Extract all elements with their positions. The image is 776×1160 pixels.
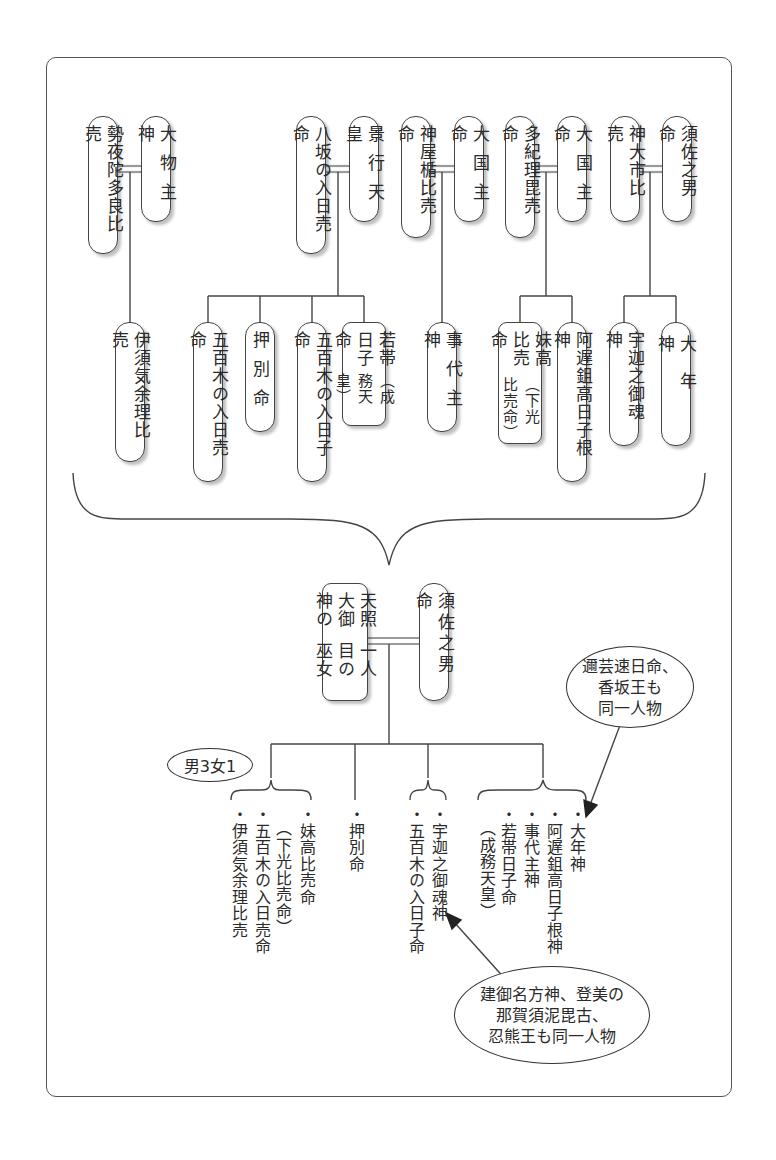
name-label: 須佐之男命: [412, 592, 456, 692]
name-label: 妹高比売命: [487, 331, 553, 377]
child-c2-2: 押別命: [245, 322, 275, 432]
name-label: 阿遅鉏高日子根神: [550, 331, 594, 473]
name-label: 一人目の巫女: [312, 642, 378, 692]
note-text: 邇芸速日命、: [582, 656, 678, 677]
child-c1-1: 伊須気余理比売: [115, 322, 145, 462]
name-label: 天照大御神の: [312, 592, 378, 642]
child-c4-1: 妹高比売命 （下光比売命）: [498, 322, 542, 444]
name-label: 大国主命: [447, 125, 491, 213]
child-c5-2: 大年神: [661, 322, 691, 446]
person-wife-bottom: 天照大御神の 一人目の巫女: [322, 583, 368, 701]
name-label: 若帯日子命: [331, 331, 397, 373]
count-label: 男3女1: [184, 753, 236, 777]
name-label: 五百木の入日子命: [290, 331, 334, 473]
child-c2-4: 若帯日子命 （成務天皇）: [342, 322, 386, 426]
person-husband-c4: 大国主命: [557, 116, 587, 222]
list-item: ・五百木の入日売命: [251, 806, 272, 955]
list-item-note: （下光比売命）: [272, 820, 293, 936]
person-husband-bottom: 須佐之男命: [419, 583, 449, 701]
name-label: 景行天皇: [342, 125, 386, 213]
child-c2-1: 五百木の入日売命: [193, 322, 223, 482]
person-wife-c4: 多紀理毘売命: [505, 116, 535, 238]
name-label: 五百木の入日売命: [186, 331, 230, 473]
note-text: 香坂王も: [598, 677, 662, 698]
list-item: ・押別命: [345, 806, 366, 872]
name-label: 多紀理毘売命: [498, 125, 542, 229]
note-text: 那賀須泥毘古、: [496, 1005, 608, 1026]
note-bubble-1: 邇芸速日命、 香坂王も 同一人物: [566, 646, 694, 728]
person-husband-c2: 景行天皇: [349, 116, 379, 222]
child-c5-1: 宇迦之御魂神: [609, 322, 639, 446]
name-label: 大年神: [654, 335, 698, 437]
name-label: 神大市比売: [603, 125, 647, 213]
child-c2-3: 五百木の入日子命: [297, 322, 327, 482]
name-label: 神屋楯比売命: [394, 125, 438, 229]
name-label: 押別命: [249, 331, 271, 418]
person-wife-c2: 八坂の入日売命: [296, 116, 326, 254]
name-label: 事代主神: [420, 331, 464, 423]
list-item: ・若帯日子命: [497, 806, 518, 905]
list-item: ・妹高比売命: [296, 806, 317, 905]
person-wife-c5: 神大市比売: [610, 116, 640, 222]
list-item: ・伊須気余理比売: [228, 806, 249, 938]
list-item: ・事代主神: [520, 806, 541, 889]
name-label: 須佐之男命: [655, 125, 699, 213]
person-husband-c3: 大国主命: [454, 116, 484, 222]
note-bubble-2: 建御名方神、登美の 那賀須泥毘古、 忍熊王も同一人物: [454, 966, 650, 1064]
name-label: 大国主命: [550, 125, 594, 213]
list-item: ・宇迦之御魂神: [428, 806, 449, 922]
note-text: 忍熊王も同一人物: [488, 1026, 616, 1047]
child-c4-2: 阿遅鉏高日子根神: [557, 322, 587, 482]
name-note: （成務天皇）: [331, 373, 397, 417]
person-wife-c1: 勢夜陀多良比売: [88, 116, 118, 254]
child-c3-1: 事代主神: [427, 322, 457, 432]
person-husband-c5: 須佐之男命: [662, 116, 692, 222]
name-label: 伊須気余理比売: [108, 331, 152, 453]
children-count-badge: 男3女1: [167, 748, 253, 782]
name-note: （下光比売命）: [498, 377, 542, 435]
list-item: ・大年神: [566, 806, 587, 872]
list-item-note: （成務天皇）: [476, 820, 497, 919]
note-text: 建御名方神、登美の: [480, 984, 624, 1005]
name-label: 八坂の入日売命: [289, 125, 333, 245]
name-label: 宇迦之御魂神: [602, 331, 646, 437]
list-item: ・五百木の入日子命: [405, 806, 426, 955]
person-wife-c3: 神屋楯比売命: [401, 116, 431, 238]
note-text: 同一人物: [598, 698, 662, 719]
name-label: 勢夜陀多良比売: [81, 125, 125, 245]
person-husband-c1: 大物主神: [141, 116, 171, 222]
list-item: ・阿遅鉏高日子根神: [543, 806, 564, 955]
name-label: 大物主神: [134, 125, 178, 213]
